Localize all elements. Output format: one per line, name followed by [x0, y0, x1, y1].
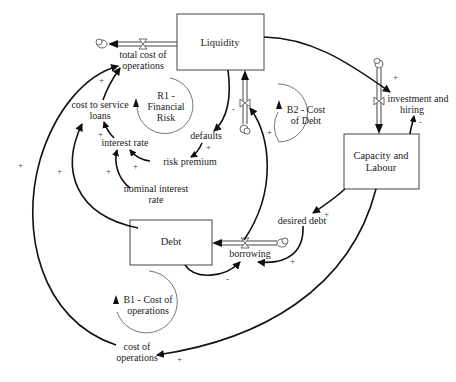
svg-text:of Debt: of Debt: [291, 115, 321, 126]
svg-text:rate: rate: [149, 194, 165, 205]
svg-text:cost of: cost of: [124, 341, 152, 352]
stock-debt-label: Debt: [161, 236, 181, 247]
svg-text:nominal interest: nominal interest: [124, 183, 189, 194]
flow-total-cost-of-operations[interactable]: total cost of operations: [96, 39, 177, 71]
cloud-source-icon: [374, 59, 383, 69]
variable-desired-debt[interactable]: desired debt: [278, 215, 327, 226]
link-risk-premium-to-interest-rate: [130, 150, 150, 161]
flow-liquidity-inflow[interactable]: [240, 70, 250, 134]
polarity-plus: +: [206, 142, 211, 152]
valve-icon: [374, 97, 384, 105]
loop-b2-cost-of-debt: B2 - Cost of Debt: [274, 84, 325, 142]
cloud-source-sink-icon: [96, 39, 107, 48]
polarity-minus: -: [419, 117, 422, 127]
polarity-minus: -: [226, 274, 229, 284]
loop-direction-arrow-icon: [276, 100, 282, 109]
variable-cost-of-operations[interactable]: cost of operations: [116, 341, 158, 363]
cloud-source-icon: [240, 125, 250, 134]
stock-debt[interactable]: Debt: [130, 220, 212, 265]
polarity-plus: +: [57, 166, 62, 176]
svg-text:operations: operations: [116, 352, 158, 363]
svg-text:R1 -: R1 -: [157, 90, 175, 101]
link-capacity-to-investment: [410, 116, 414, 134]
svg-text:B1 - Cost of: B1 - Cost of: [123, 294, 173, 305]
polarity-plus: +: [18, 160, 23, 170]
polarity-plus: +: [99, 75, 104, 85]
link-capacity-to-cost-of-operations: [157, 189, 376, 355]
variable-cost-to-service-loans[interactable]: cost to service loans: [71, 99, 129, 121]
link-liquidity-to-defaults: [214, 70, 229, 131]
link-liquidity-to-investment: [264, 37, 390, 92]
flow-label-line2: operations: [122, 60, 164, 71]
polarity-plus: +: [106, 166, 111, 176]
polarity-plus: +: [267, 127, 272, 137]
causal-loop-diagram: Liquidity Capacity and Labour Debt total…: [0, 0, 456, 382]
stock-capacity-label-line2: Labour: [366, 162, 397, 173]
svg-text:loans: loans: [89, 110, 110, 121]
loop-r1-financial-risk: R1 - Financial Risk: [133, 78, 193, 134]
flow-label: borrowing: [229, 248, 271, 259]
polarity-plus: +: [98, 129, 103, 139]
stock-capacity-and-labour[interactable]: Capacity and Labour: [344, 134, 419, 189]
variable-risk-premium[interactable]: risk premium: [163, 156, 217, 167]
flow-label-line1: investment and: [388, 93, 449, 104]
svg-text:operations: operations: [127, 305, 169, 316]
variable-defaults[interactable]: defaults: [190, 130, 222, 141]
valve-icon: [240, 99, 250, 107]
variable-nominal-interest-rate[interactable]: nominal interest rate: [124, 183, 189, 205]
polarity-plus: +: [393, 72, 398, 82]
svg-text:cost to service: cost to service: [71, 99, 129, 110]
loop-direction-arrow-icon: [113, 295, 119, 304]
loop-direction-arrow-icon: [133, 98, 139, 107]
loop-b1-cost-of-operations: B1 - Cost of operations: [113, 271, 177, 333]
polarity-plus: +: [290, 256, 295, 266]
svg-text:B2 - Cost: B2 - Cost: [287, 104, 326, 115]
valve-icon: [139, 39, 147, 49]
polarity-plus: +: [324, 209, 329, 219]
svg-text:Financial: Financial: [147, 101, 184, 112]
flow-label-line1: total cost of: [119, 49, 167, 60]
link-interest-rate-to-cost-to-service: [104, 122, 114, 138]
link-defaults-to-risk-premium: [191, 143, 202, 157]
variable-interest-rate[interactable]: interest rate: [102, 137, 149, 148]
link-polarities: + + + + + + - + + + - + + - +: [18, 72, 422, 364]
svg-text:Risk: Risk: [157, 112, 175, 123]
flow-borrowing[interactable]: borrowing: [212, 238, 288, 259]
link-cost-to-service-to-total-cost: [103, 68, 120, 100]
polarity-plus: +: [177, 354, 182, 364]
polarity-plus: +: [133, 161, 138, 171]
causal-links: [33, 37, 414, 355]
stock-capacity-label-line1: Capacity and: [353, 150, 409, 161]
flow-label-line2: hiring: [400, 104, 424, 115]
cloud-source-icon: [277, 238, 288, 247]
flow-investment-and-hiring[interactable]: investment and hiring: [374, 59, 448, 135]
polarity-minus: -: [232, 104, 235, 114]
stock-liquidity-label: Liquidity: [200, 37, 240, 48]
stock-liquidity[interactable]: Liquidity: [177, 14, 264, 70]
